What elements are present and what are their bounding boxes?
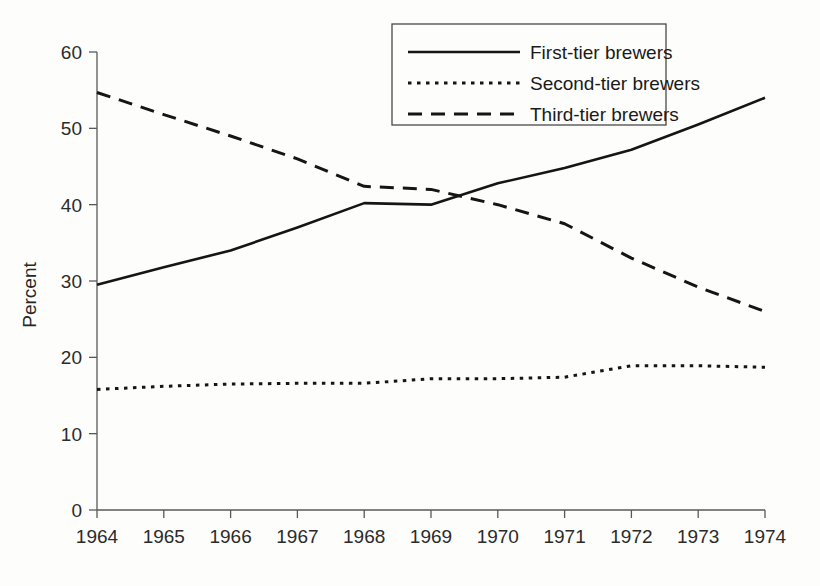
chart-container: 0102030405060 19641965196619671968196919… — [0, 0, 820, 586]
legend-label: Second-tier brewers — [530, 73, 700, 94]
series-line-dotted — [97, 366, 765, 390]
x-tick-label: 1973 — [677, 526, 719, 547]
legend-label: First-tier brewers — [530, 42, 673, 63]
x-tick-label: 1969 — [410, 526, 452, 547]
x-tick-label: 1970 — [477, 526, 519, 547]
x-tick-label: 1971 — [543, 526, 585, 547]
y-tick-label: 20 — [61, 347, 82, 368]
x-tick-label: 1968 — [343, 526, 385, 547]
y-tick-label: 50 — [61, 118, 82, 139]
y-axis-title: Percent — [19, 262, 40, 328]
x-tick-label: 1972 — [610, 526, 652, 547]
x-tick-label: 1967 — [276, 526, 318, 547]
legend-label: Third-tier brewers — [530, 104, 679, 125]
chart-legend: First-tier brewersSecond-tier brewersThi… — [392, 24, 700, 125]
x-tick-group — [97, 510, 765, 518]
x-tick-label: 1974 — [744, 526, 787, 547]
y-tick-label: 60 — [61, 42, 82, 63]
x-tick-label: 1966 — [209, 526, 251, 547]
y-tick-label: 40 — [61, 195, 82, 216]
x-tick-label: 1965 — [143, 526, 185, 547]
y-tick-label-group: 0102030405060 — [61, 42, 82, 521]
y-tick-label: 10 — [61, 424, 82, 445]
x-tick-label: 1964 — [76, 526, 119, 547]
series-group — [97, 92, 765, 389]
y-tick-label: 30 — [61, 271, 82, 292]
y-tick-label: 0 — [71, 500, 82, 521]
y-tick-group — [89, 52, 97, 510]
line-chart: 0102030405060 19641965196619671968196919… — [0, 0, 820, 586]
x-tick-label-group: 1964196519661967196819691970197119721973… — [76, 526, 787, 547]
